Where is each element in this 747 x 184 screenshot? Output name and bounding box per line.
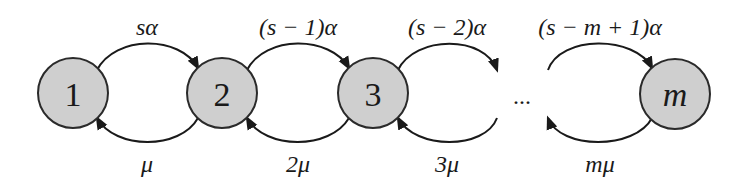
node-label-m: m — [663, 76, 688, 113]
backward-edge-dots-3: 3μ — [398, 118, 497, 177]
edge-label-s-minus-1-alpha: (s − 1)α — [259, 14, 338, 40]
edge-label-mu: μ — [140, 151, 153, 177]
forward-edge-2-3: (s − 1)α — [247, 14, 349, 70]
state-node-1: 1 — [38, 58, 108, 128]
node-label-2: 2 — [214, 76, 231, 113]
edge-label-s-minus-m-plus-1-alpha: (s − m + 1)α — [538, 14, 662, 40]
state-transition-diagram: sα (s − 1)α (s − 2)α (s − m + 1)α μ 2μ 3… — [0, 0, 747, 184]
edge-label-s-minus-2-alpha: (s − 2)α — [408, 14, 487, 40]
state-node-m: m — [640, 59, 710, 129]
backward-edge-3-2: 2μ — [247, 118, 349, 177]
edge-label-m-mu: mμ — [585, 151, 614, 177]
node-label-1: 1 — [65, 76, 82, 113]
edge-label-2mu: 2μ — [286, 151, 310, 177]
state-node-2: 2 — [187, 58, 257, 128]
node-label-3: 3 — [365, 76, 382, 113]
state-node-3: 3 — [338, 58, 408, 128]
backward-edge-2-1: μ — [97, 118, 198, 177]
forward-edge-dots-m: (s − m + 1)α — [538, 14, 662, 70]
ellipsis: ... — [513, 83, 531, 109]
edge-label-3mu: 3μ — [434, 151, 459, 177]
forward-edge-3-dots: (s − 2)α — [398, 14, 497, 70]
edge-label-s-alpha: sα — [136, 14, 158, 40]
forward-edge-1-2: sα — [97, 14, 198, 70]
backward-edge-m-dots: mμ — [548, 118, 652, 177]
